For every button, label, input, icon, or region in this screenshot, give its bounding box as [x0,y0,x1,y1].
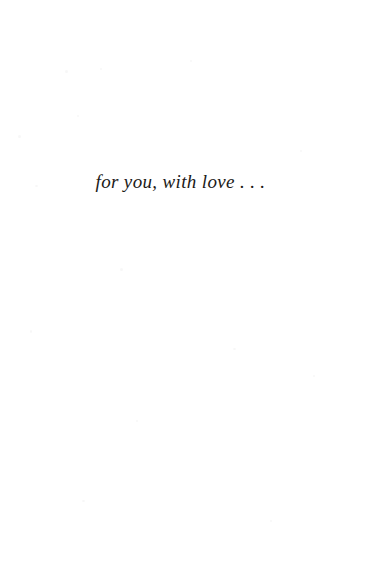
paper-speck [82,500,85,502]
paper-speck [313,375,315,377]
paper-speck [120,268,123,271]
paper-speck [270,520,272,522]
paper-speck [77,115,79,117]
paper-speck [233,348,236,350]
paper-speck [100,68,102,70]
paper-speck [300,150,302,152]
paper-speck [30,330,32,333]
dedication-block: for you, with love . . . [0,170,379,194]
paper-speck [136,420,138,422]
paper-speck [190,60,192,62]
paper-speck [18,135,21,138]
dedication-text: for you, with love . . . [96,170,266,194]
paper-grain [0,0,379,580]
paper-speck [65,70,68,73]
dedication-page: for you, with love . . . [0,0,379,580]
